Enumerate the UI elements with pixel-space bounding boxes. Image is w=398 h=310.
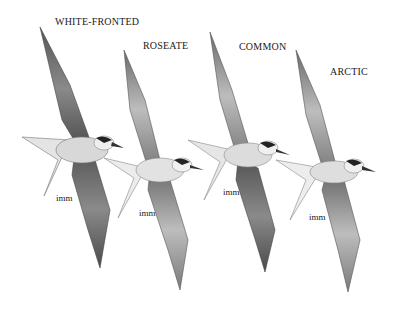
age-label-arctic: imm <box>309 212 326 222</box>
age-label-common: imm <box>223 187 240 197</box>
species-label-common: COMMON <box>239 41 286 52</box>
bird-white-fronted <box>22 27 124 268</box>
tern-illustration-plate: WHITE-FRONTED ROSEATE COMMON ARCTIC imm … <box>0 0 398 310</box>
species-label-white-fronted: WHITE-FRONTED <box>55 16 139 27</box>
age-label-white-fronted: imm <box>56 193 73 203</box>
species-label-roseate: ROSEATE <box>143 40 188 51</box>
species-label-arctic: ARCTIC <box>330 66 368 77</box>
bird-arctic <box>276 50 376 292</box>
bird-common <box>188 32 290 272</box>
tern-drawings <box>0 0 398 310</box>
bird-roseate <box>104 50 204 290</box>
age-label-roseate: imm <box>139 208 156 218</box>
